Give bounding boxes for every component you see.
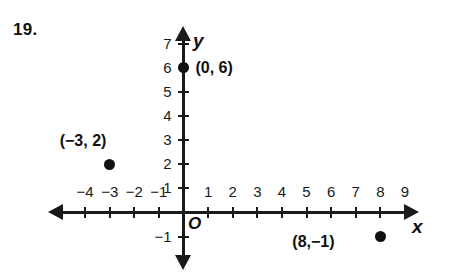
x-tick-label: 6 [319, 183, 343, 200]
x-tick-label: 4 [270, 183, 294, 200]
y-tick [178, 187, 189, 189]
y-tick-label: 7 [150, 35, 172, 52]
y-tick-label: 5 [150, 83, 172, 100]
x-tick [306, 207, 308, 218]
data-point-label: (0, 6) [196, 59, 233, 77]
x-tick [281, 207, 283, 218]
data-point [178, 62, 189, 73]
y-axis-label: y [193, 30, 204, 52]
y-tick [178, 163, 189, 165]
x-tick [109, 207, 111, 218]
x-tick [84, 207, 86, 218]
x-tick [404, 207, 406, 218]
y-tick-label: −1 [150, 228, 172, 245]
x-tick-label: 8 [368, 183, 392, 200]
y-tick [178, 91, 189, 93]
x-tick-label: −4 [73, 183, 97, 200]
y-tick-label: 2 [150, 155, 172, 172]
coordinate-plane-graph: x y O −4−3−2−1123456789 −11234567 (0, 6)… [0, 0, 451, 278]
x-axis-line [62, 211, 410, 214]
y-tick-label: 3 [150, 131, 172, 148]
y-tick-label: 6 [150, 59, 172, 76]
x-tick [207, 207, 209, 218]
x-tick-label: 5 [295, 183, 319, 200]
x-tick-label: −3 [98, 183, 122, 200]
x-tick-label: 9 [393, 183, 417, 200]
data-point [104, 159, 115, 170]
x-tick [158, 207, 160, 218]
y-axis-down-arrow-icon [175, 255, 191, 270]
x-tick-label: −2 [122, 183, 146, 200]
x-tick [355, 207, 357, 218]
x-tick [232, 207, 234, 218]
x-tick [256, 207, 258, 218]
x-axis-label: x [412, 216, 423, 238]
x-tick-label: 2 [221, 183, 245, 200]
y-tick [178, 139, 189, 141]
x-tick-label: 7 [344, 183, 368, 200]
data-point-label: (8,−1) [292, 233, 334, 251]
y-tick [178, 236, 189, 238]
data-point-label: (−3, 2) [60, 132, 107, 150]
x-tick-label: 1 [196, 183, 220, 200]
y-tick [178, 43, 189, 45]
data-point [375, 231, 386, 242]
y-tick [178, 115, 189, 117]
y-tick-label: 4 [150, 107, 172, 124]
x-tick [379, 207, 381, 218]
y-tick-label: 1 [150, 179, 172, 196]
y-axis-up-arrow-icon [175, 26, 191, 41]
x-tick-label: 3 [245, 183, 269, 200]
worksheet-page: 19. x y O −4−3−2−1123456789 −11234567 (0… [0, 0, 451, 278]
x-tick [133, 207, 135, 218]
x-tick [330, 207, 332, 218]
origin-label: O [188, 214, 201, 234]
x-axis-left-arrow-icon [48, 204, 63, 220]
